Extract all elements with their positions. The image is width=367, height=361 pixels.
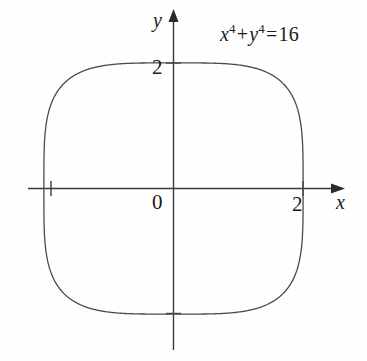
x-tick-label-2: 2	[292, 194, 303, 215]
y-axis-arrowhead-icon	[169, 9, 179, 22]
origin-label: 0	[152, 192, 163, 213]
y-tick-label-2: 2	[152, 57, 163, 78]
coordinate-plot-canvas	[0, 0, 367, 361]
equation-equals-sign: =	[265, 23, 278, 45]
equation-x-var: x	[220, 23, 229, 45]
equation-plus-sign: +	[236, 23, 249, 45]
equation-right-hand-side: 16	[279, 23, 299, 45]
equation-annotation: x4+y4=16	[220, 22, 299, 44]
equation-y-var: y	[249, 23, 258, 45]
x-axis-label: x	[336, 192, 345, 212]
plot-figure: y x 0 2 2 x4+y4=16	[0, 0, 367, 361]
y-axis-label: y	[153, 10, 162, 30]
equation-x-exponent: 4	[229, 21, 236, 36]
